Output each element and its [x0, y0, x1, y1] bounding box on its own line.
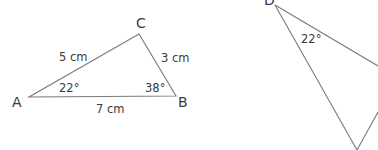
triangle-second-top-edge: [275, 5, 378, 66]
side-label-ab: 7 cm: [96, 102, 125, 116]
side-label-cb: 3 cm: [161, 51, 190, 65]
diagram-canvas: A B C 5 cm 3 cm 7 cm 22° 38° D 22°: [0, 0, 378, 150]
angle-label-d: 22°: [301, 32, 321, 46]
vertex-label-c: C: [136, 15, 146, 31]
side-label-ac: 5 cm: [59, 50, 88, 64]
vertex-label-a: A: [12, 94, 22, 110]
triangle-second: D 22°: [264, 0, 378, 150]
triangle-second-left-edge: [275, 5, 357, 150]
triangle-abc: A B C 5 cm 3 cm 7 cm 22° 38°: [12, 15, 190, 116]
angle-label-b: 38°: [145, 81, 165, 95]
vertex-label-d: D: [264, 0, 275, 8]
vertex-label-b: B: [178, 94, 188, 110]
triangle-second-right-edge: [357, 112, 378, 150]
angle-label-a: 22°: [59, 81, 79, 95]
